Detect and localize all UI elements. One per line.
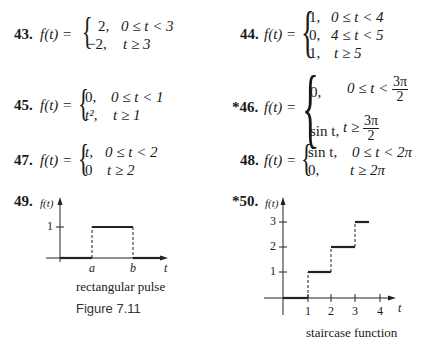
x-tick-label: 2 [328, 304, 334, 319]
graph-caption: staircase function [306, 325, 397, 341]
staircase-function-graph [0, 0, 426, 348]
y-tick-label: 2 [270, 239, 276, 254]
x-tick-label: 4 [377, 304, 383, 319]
y-tick-label: 1 [270, 264, 276, 279]
x-axis-label: t [398, 301, 401, 316]
x-tick-label: 3 [352, 304, 358, 319]
x-tick-label: 1 [305, 304, 311, 319]
y-tick-label: 3 [270, 214, 276, 229]
